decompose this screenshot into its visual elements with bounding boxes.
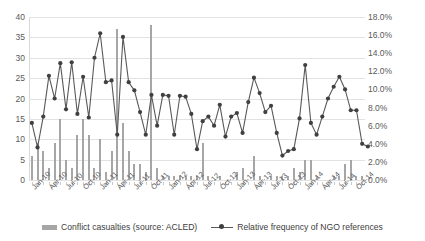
left-axis-tick-label: 20 bbox=[16, 94, 25, 104]
data-point-marker bbox=[75, 112, 79, 116]
data-point-marker bbox=[98, 31, 102, 35]
data-point-marker bbox=[252, 76, 256, 80]
data-point-marker bbox=[366, 144, 370, 148]
data-point-marker bbox=[149, 93, 153, 97]
left-axis-tick-label: 25 bbox=[16, 73, 25, 83]
data-point-marker bbox=[132, 88, 136, 92]
chart-container: 0510152025303540 0.0%2.0%4.0%6.0%8.0%10.… bbox=[0, 0, 425, 241]
right-axis: 0.0%2.0%4.0%6.0%8.0%10.0%12.0%14.0%16.0%… bbox=[368, 17, 423, 180]
data-point-marker bbox=[155, 124, 159, 128]
data-point-marker bbox=[104, 80, 108, 84]
legend-item-conflict-casualties: Conflict casualties (source: ACLED) bbox=[42, 222, 197, 232]
chart-legend: Conflict casualties (source: ACLED) Rela… bbox=[0, 219, 425, 235]
data-point-marker bbox=[109, 78, 113, 82]
legend-label: Conflict casualties (source: ACLED) bbox=[61, 222, 197, 232]
left-axis-tick-label: 10 bbox=[16, 134, 25, 144]
data-point-marker bbox=[115, 133, 119, 137]
data-point-marker bbox=[35, 145, 39, 149]
right-axis-tick-label: 12.0% bbox=[368, 66, 392, 76]
right-axis-tick-label: 2.0% bbox=[368, 157, 387, 167]
data-point-marker bbox=[195, 147, 199, 151]
line-series-ngo-references bbox=[29, 17, 365, 180]
left-axis-tick-label: 40 bbox=[16, 12, 25, 22]
data-point-marker bbox=[343, 87, 347, 91]
data-point-marker bbox=[41, 115, 45, 119]
data-point-marker bbox=[223, 134, 227, 138]
data-point-marker bbox=[337, 75, 341, 79]
data-point-marker bbox=[320, 115, 324, 119]
data-point-marker bbox=[240, 131, 244, 135]
data-point-marker bbox=[121, 35, 125, 39]
data-point-marker bbox=[81, 75, 85, 79]
data-point-marker bbox=[206, 115, 210, 119]
data-point-marker bbox=[87, 115, 91, 119]
data-point-marker bbox=[47, 74, 51, 78]
data-point-marker bbox=[58, 61, 62, 65]
data-point-marker bbox=[70, 60, 74, 64]
left-axis-tick-label: 35 bbox=[16, 32, 25, 42]
series-line-path bbox=[32, 33, 368, 155]
right-axis-tick-label: 18.0% bbox=[368, 12, 392, 22]
data-point-marker bbox=[246, 100, 250, 104]
data-point-marker bbox=[172, 133, 176, 137]
data-point-marker bbox=[218, 103, 222, 107]
data-point-marker bbox=[292, 147, 296, 151]
data-point-marker bbox=[30, 121, 34, 125]
data-point-marker bbox=[326, 96, 330, 100]
x-axis-labels: Jan-10Apr-10Jul-10Oct-10Jan-11Apr-11Jul-… bbox=[29, 182, 366, 220]
data-point-marker bbox=[349, 108, 353, 112]
data-point-marker bbox=[64, 107, 68, 111]
data-point-marker bbox=[184, 95, 188, 99]
right-axis-tick-label: 14.0% bbox=[368, 48, 392, 58]
data-point-marker bbox=[189, 112, 193, 116]
data-point-marker bbox=[303, 63, 307, 67]
data-point-marker bbox=[138, 110, 142, 114]
data-point-marker bbox=[258, 91, 262, 95]
data-point-marker bbox=[314, 133, 318, 137]
left-axis-tick-label: 15 bbox=[16, 114, 25, 124]
data-point-marker bbox=[178, 94, 182, 98]
data-point-marker bbox=[280, 153, 284, 157]
data-point-marker bbox=[297, 116, 301, 120]
line-marker-swatch-icon bbox=[211, 223, 233, 231]
data-point-marker bbox=[127, 80, 131, 84]
data-point-marker bbox=[229, 115, 233, 119]
left-axis-tick-label: 5 bbox=[20, 155, 25, 165]
data-point-marker bbox=[161, 93, 165, 97]
right-axis-tick-label: 6.0% bbox=[368, 121, 387, 131]
data-point-marker bbox=[144, 133, 148, 137]
data-point-marker bbox=[92, 56, 96, 60]
right-axis-tick-label: 10.0% bbox=[368, 84, 392, 94]
data-point-marker bbox=[354, 108, 358, 112]
plot-area bbox=[29, 17, 365, 180]
left-axis-tick-label: 30 bbox=[16, 53, 25, 63]
data-point-marker bbox=[201, 119, 205, 123]
data-point-marker bbox=[53, 96, 57, 100]
right-axis-tick-label: 4.0% bbox=[368, 139, 387, 149]
data-point-marker bbox=[235, 111, 239, 115]
left-axis: 0510152025303540 bbox=[0, 17, 25, 180]
data-point-marker bbox=[166, 94, 170, 98]
data-point-marker bbox=[275, 131, 279, 135]
data-point-marker bbox=[286, 149, 290, 153]
data-point-marker bbox=[212, 124, 216, 128]
legend-item-ngo-references: Relative frequency of NGO references bbox=[211, 222, 383, 232]
left-axis-tick-label: 0 bbox=[20, 175, 25, 185]
data-point-marker bbox=[309, 121, 313, 125]
data-point-marker bbox=[269, 104, 273, 108]
data-point-marker bbox=[263, 110, 267, 114]
bar-swatch-icon bbox=[42, 225, 57, 230]
right-axis-tick-label: 16.0% bbox=[368, 30, 392, 40]
data-point-marker bbox=[332, 85, 336, 89]
legend-label: Relative frequency of NGO references bbox=[237, 222, 383, 232]
right-axis-tick-label: 8.0% bbox=[368, 103, 387, 113]
data-point-marker bbox=[360, 142, 364, 146]
